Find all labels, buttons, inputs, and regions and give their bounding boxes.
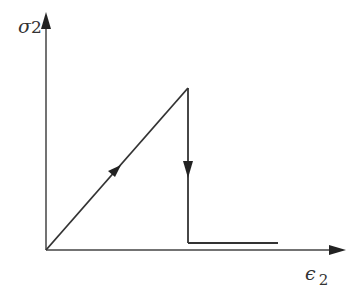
- loading-direction-arrow-icon: [108, 165, 121, 177]
- x-axis-arrow-icon: [329, 245, 346, 255]
- x-axis-label: ϵ2: [305, 262, 328, 289]
- y-axis-arrow-icon: [41, 12, 51, 29]
- stress-strain-diagram: σ2 ϵ2: [0, 0, 362, 300]
- y-axis-label: σ2: [18, 15, 42, 37]
- drop-direction-arrow-icon: [183, 161, 193, 178]
